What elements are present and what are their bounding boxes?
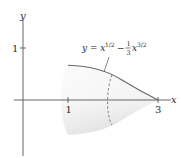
eq-exp1: 1/2	[105, 41, 115, 48]
y-tick-label-1: 1	[12, 43, 18, 54]
curve-equation-label: y = x 1/2 − 1 3 x 3/2	[81, 40, 147, 58]
x-tick-label-3: 3	[155, 104, 161, 115]
eq-lhs: y = x	[81, 43, 105, 53]
x-tick-label-1: 1	[66, 104, 72, 115]
solid-diagram: y x 1 3 1 y = x 1/2 − 1 3 x 3/2	[0, 0, 181, 158]
label-leader-line	[104, 57, 109, 72]
eq-frac-num: 1	[127, 40, 131, 48]
eq-minus: −	[117, 43, 125, 53]
eq-frac-den: 3	[127, 49, 131, 57]
eq-exp2: 3/2	[137, 41, 147, 48]
x-axis-label: x	[171, 94, 177, 105]
y-axis-label: y	[19, 10, 26, 21]
